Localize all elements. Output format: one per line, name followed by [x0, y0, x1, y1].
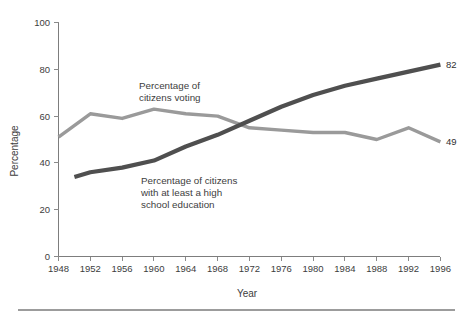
x-tick-label-1964: 1964 — [175, 263, 196, 274]
education-annotation: Percentage of citizens with at least a h… — [140, 175, 237, 210]
series-line-voting — [59, 109, 441, 142]
chart-canvas: 0 20 40 60 80 100 1948 1952 1956 1960 19… — [0, 0, 465, 321]
voting-annotation-line-2: citizens voting — [139, 92, 201, 103]
voting-annotation-line-1: Percentage of — [139, 80, 200, 91]
y-tick-label-100: 100 — [34, 17, 50, 28]
series-line-education — [74, 65, 440, 177]
education-end-label: 82 — [446, 59, 457, 70]
voting-annotation: Percentage of citizens voting — [139, 80, 201, 103]
x-tick-label-1996: 1996 — [430, 263, 451, 274]
education-annotation-line-2: with at least a high — [140, 187, 222, 198]
x-axis-title: Year — [237, 288, 258, 299]
footer-divider — [18, 309, 455, 311]
voting-end-label: 49 — [446, 136, 457, 147]
x-tick-label-1992: 1992 — [398, 263, 419, 274]
y-tick-label-80: 80 — [39, 64, 50, 75]
x-tick-label-1976: 1976 — [271, 263, 292, 274]
y-tick-label-20: 20 — [39, 204, 50, 215]
education-annotation-line-1: Percentage of citizens — [141, 175, 237, 186]
y-tick-label-60: 60 — [39, 111, 50, 122]
y-axis-title: Percentage — [9, 125, 20, 177]
education-annotation-line-3: school education — [141, 199, 215, 210]
x-axis-ticks — [59, 257, 441, 262]
y-tick-label-0: 0 — [45, 251, 50, 262]
y-axis-ticks — [54, 23, 59, 257]
x-tick-label-1948: 1948 — [48, 263, 69, 274]
x-tick-label-1972: 1972 — [239, 263, 260, 274]
x-tick-label-1984: 1984 — [334, 263, 355, 274]
x-tick-label-1980: 1980 — [303, 263, 324, 274]
x-tick-label-1956: 1956 — [112, 263, 133, 274]
x-tick-label-1952: 1952 — [80, 263, 101, 274]
x-tick-label-1988: 1988 — [366, 263, 387, 274]
y-tick-label-40: 40 — [39, 157, 50, 168]
line-chart: 0 20 40 60 80 100 1948 1952 1956 1960 19… — [0, 0, 465, 321]
x-tick-label-1968: 1968 — [207, 263, 228, 274]
x-tick-label-1960: 1960 — [143, 263, 164, 274]
